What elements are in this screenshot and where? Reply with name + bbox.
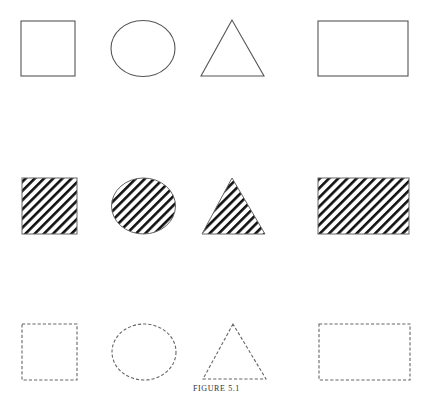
row-hatched xyxy=(22,178,409,234)
hatched-triangle xyxy=(202,178,265,234)
row-dashed xyxy=(22,324,410,380)
row-outlined xyxy=(21,20,408,77)
outlined-rectangle xyxy=(318,21,408,76)
dashed-circle xyxy=(112,324,176,380)
outlined-triangle xyxy=(201,20,264,76)
dashed-square xyxy=(22,324,77,380)
hatched-square xyxy=(22,178,77,234)
hatched-rectangle xyxy=(318,178,409,234)
outlined-circle xyxy=(111,21,175,77)
outlined-square xyxy=(21,21,75,76)
hatched-circle xyxy=(112,178,176,234)
shapes-figure xyxy=(0,0,433,414)
dashed-triangle xyxy=(203,324,266,379)
dashed-rectangle xyxy=(319,324,410,380)
figure-caption: FIGURE 5.1 xyxy=(0,384,433,393)
